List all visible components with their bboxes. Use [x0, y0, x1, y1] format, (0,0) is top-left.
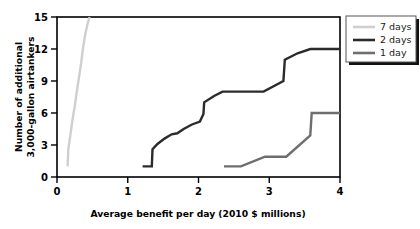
- y-tick-label: 12: [34, 44, 48, 55]
- y-axis-ticks: [51, 17, 57, 177]
- y-tick-label: 6: [41, 108, 48, 119]
- x-axis-ticks: [57, 177, 340, 183]
- legend-label-7-days: 7 days: [380, 21, 412, 32]
- series-line-2-days: [143, 49, 340, 166]
- series-line-1-day: [224, 113, 340, 166]
- y-tick-label: 15: [34, 12, 48, 23]
- x-tick-label: 2: [195, 186, 202, 197]
- y-tick-label: 3: [41, 140, 48, 151]
- chart-container: 03691215 01234 Average benefit per day (…: [0, 0, 420, 229]
- y-tick-label: 9: [41, 76, 48, 87]
- x-axis-title: Average benefit per day (2010 $ millions…: [90, 208, 305, 219]
- y-tick-label: 0: [41, 172, 48, 183]
- x-tick-label: 0: [54, 186, 61, 197]
- legend-items: 7 days2 days1 day: [353, 21, 412, 58]
- data-series-group: [68, 17, 340, 166]
- series-line-7-days: [68, 17, 90, 166]
- legend-label-2-days: 2 days: [380, 34, 412, 45]
- chart-svg: 03691215 01234 Average benefit per day (…: [0, 0, 420, 229]
- x-axis-tick-labels: 01234: [54, 186, 344, 197]
- legend-label-1-day: 1 day: [380, 47, 407, 58]
- chart-legend: 7 days2 days1 day: [346, 16, 419, 65]
- y-axis-title-line2: 3,000-gallon airtankers: [25, 36, 36, 158]
- x-tick-label: 4: [337, 186, 344, 197]
- plot-frame: [57, 17, 340, 177]
- y-axis-tick-labels: 03691215: [34, 12, 48, 183]
- y-axis-title-line1: Number of additional: [13, 42, 24, 152]
- x-tick-label: 3: [266, 186, 273, 197]
- x-tick-label: 1: [124, 186, 131, 197]
